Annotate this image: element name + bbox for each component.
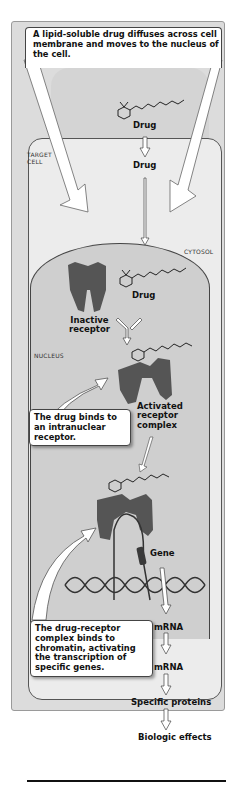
big-arrow-left <box>24 60 88 212</box>
label-activated-complex: Activated receptor complex <box>137 402 183 430</box>
label-drug-membrane: Drug <box>133 160 156 170</box>
label-gene: Gene <box>150 548 175 558</box>
arrow-down-icon <box>161 633 171 654</box>
label-target-cell: TARGET CELL <box>27 151 52 165</box>
callout-arrow-chromatin <box>32 528 96 620</box>
dna-helix-icon <box>65 578 205 593</box>
drug-molecule-icon <box>118 100 184 119</box>
label-mrna-2: mRNA <box>154 662 183 672</box>
arrow-down-icon <box>161 709 171 730</box>
inactive-receptor-icon <box>68 262 106 312</box>
arrow-down-icon <box>140 137 150 157</box>
arrow-down-icon <box>139 437 153 472</box>
big-arrow-right <box>170 60 222 212</box>
label-inactive-receptor: Inactive receptor <box>69 316 110 335</box>
drug-molecule-icon <box>120 268 186 287</box>
binding-arrow-icon <box>116 318 142 345</box>
arrow-down-icon <box>141 178 149 245</box>
label-nucleus: NUCLEUS <box>34 352 64 359</box>
label-mrna-1: mRNA <box>154 622 183 632</box>
callout-binds-chromatin: The drug-receptor complex binds to chrom… <box>30 620 153 677</box>
gene-icon <box>136 546 147 565</box>
divider-line <box>27 780 226 782</box>
arrow-down-icon <box>161 674 171 695</box>
label-drug-outside: Drug <box>133 120 156 130</box>
callout-binds-receptor: The drug binds to an intranuclear recept… <box>29 409 131 446</box>
label-drug-cytosol: Drug <box>132 290 155 300</box>
label-specific-proteins: Specific proteins <box>131 697 211 707</box>
drug-receptor-complex-icon <box>97 494 153 540</box>
label-cytosol: CYTOSOL <box>184 248 213 255</box>
title-callout: A lipid-soluble drug diffuses across cel… <box>25 27 222 68</box>
activated-receptor-icon <box>118 358 172 404</box>
label-biologic-effects: Biologic effects <box>138 732 212 742</box>
